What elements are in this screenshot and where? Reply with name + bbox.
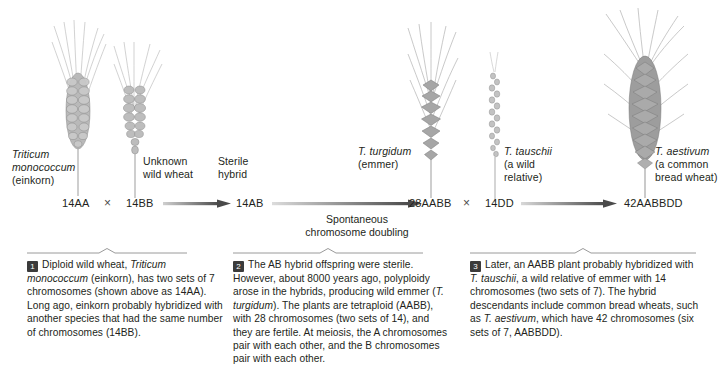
caption-one-text: 1Diploid wild wheat, Triticum monococcum… [27,258,223,339]
species-label-line: relative) [504,171,574,184]
species-label-line: (a wild [504,158,574,171]
species-label-einkorn: Triticum monococcum (einkorn) [12,148,108,188]
caption-two-text: 2The AB hybrid offspring were sterile. H… [233,258,448,366]
chromosome-count-hybrid: 14AB [236,197,264,209]
species-label-line: Unknown [143,155,225,168]
species-label-line: T. turgidum [358,145,438,158]
species-label-line: T. aestivum [655,145,723,158]
caption-badge-3: 3 [470,261,481,272]
sterile-hybrid-line: hybrid [218,168,288,181]
caption-rule-icon [470,247,696,255]
caption-run-italic: T. aestivum [484,313,536,324]
caption-run: Later, an AABB plant probably hybridized… [485,259,693,270]
cross-symbol-2: × [463,197,470,209]
arrow-chromosome-doubling [272,196,422,214]
chromosome-count-wild-wheat: 14BB [126,197,154,209]
caption-badge-1: 1 [27,261,38,272]
species-label-tauschii: T. tauschii (a wild relative) [504,145,574,185]
caption-run-italic: T. tauschii [470,273,516,284]
sterile-hybrid-line: Sterile [218,155,288,168]
annotation-line: chromosome doubling [277,226,437,239]
species-label-line: (a common [655,158,723,171]
figure-canvas: Triticum monococcum (einkorn) Unknown wi… [0,0,723,377]
arrow-hybridization-2 [521,196,617,214]
species-label-line: (einkorn) [12,174,108,187]
label-sterile-hybrid: Sterile hybrid [218,155,288,181]
annotation-line: Spontaneous [277,213,437,226]
species-label-line: monococcum [12,161,108,174]
species-label-line: bread wheat) [655,171,723,184]
annotation-spontaneous-doubling: Spontaneous chromosome doubling [277,213,437,239]
caption-run: Diploid wild wheat, [42,259,130,270]
species-label-line: wild wheat [143,168,225,181]
species-label-aestivum: T. aestivum (a common bread wheat) [655,145,723,185]
species-label-unknown-wild: Unknown wild wheat [143,155,225,181]
chromosome-count-bread-wheat: 42AABBDD [624,197,683,209]
caption-run: The AB hybrid offspring were sterile. Ho… [233,259,436,297]
species-label-turgidum: T. turgidum (emmer) [358,145,438,171]
cross-symbol-1: × [104,197,111,209]
chromosome-count-tauschii: 14DD [485,197,514,209]
species-label-line: T. tauschii [504,145,574,158]
species-label-line: Triticum [12,148,108,161]
species-label-line: (emmer) [358,158,438,171]
arrow-hybridization-1 [163,196,231,214]
chromosome-count-einkorn: 14AA [62,197,90,209]
caption-badge-2: 2 [233,261,244,272]
caption-rule-icon [233,247,423,255]
chromosome-count-emmer: 28AABB [409,197,451,209]
caption-rule-icon [27,247,187,255]
caption-three-text: 3Later, an AABB plant probably hybridize… [470,258,700,339]
